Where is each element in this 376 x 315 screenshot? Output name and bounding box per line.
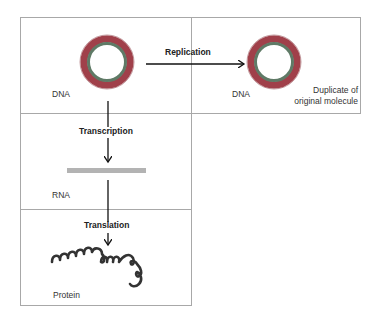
rna-label: RNA (52, 190, 70, 200)
rna-strand-icon (67, 168, 146, 173)
duplicate-caption-line-2: original molecule (294, 96, 358, 107)
dna-label: DNA (52, 89, 70, 99)
protein-label: Protein (53, 290, 80, 300)
translation-label: Translation (84, 220, 129, 230)
protein-coil-icon (52, 248, 141, 287)
dna-ring-icon (80, 35, 134, 89)
transcription-label: Transcription (79, 126, 133, 136)
dna-duplicate-label: DNA (232, 89, 250, 99)
replication-label: Replication (165, 47, 211, 57)
duplicate-caption: Duplicate of original molecule (294, 85, 358, 107)
duplicate-caption-line-1: Duplicate of (294, 85, 358, 96)
dna-duplicate-ring-icon (247, 35, 301, 89)
